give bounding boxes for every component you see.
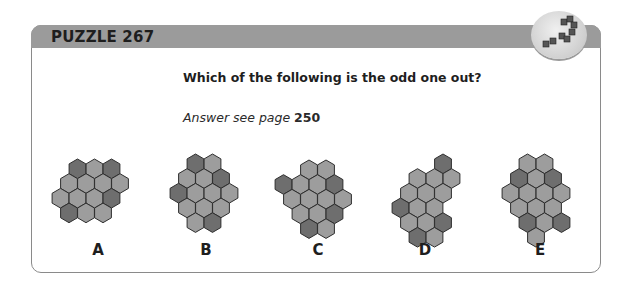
hex-cell <box>95 203 112 223</box>
hex-figure-d[interactable] <box>390 152 500 252</box>
question-text: Which of the following is the odd one ou… <box>183 70 482 85</box>
hex-figure-b[interactable] <box>168 152 278 252</box>
option-label-e[interactable]: E <box>530 241 550 259</box>
hex-cell <box>187 213 204 233</box>
answer-reference: Answer see page 250 <box>183 110 320 125</box>
option-label-d[interactable]: D <box>415 241 435 259</box>
answer-page: 250 <box>294 110 320 125</box>
hex-figure-e[interactable] <box>500 152 610 252</box>
hex-cell <box>204 213 221 233</box>
hex-figure-c[interactable] <box>273 158 383 258</box>
option-label-c[interactable]: C <box>308 241 328 259</box>
hex-cell <box>553 213 570 233</box>
hex-cell <box>78 203 95 223</box>
hex-cell <box>61 203 78 223</box>
puzzle-title: PUZZLE 267 <box>51 28 154 46</box>
hex-cell <box>318 219 335 239</box>
option-label-b[interactable]: B <box>196 241 216 259</box>
answer-prefix: Answer see page <box>183 110 290 125</box>
option-label-a[interactable]: A <box>88 241 108 259</box>
cube-steps-icon <box>531 11 587 59</box>
hex-cell <box>301 219 318 239</box>
